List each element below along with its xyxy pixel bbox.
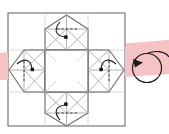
origami-diagram-figure [0,0,169,134]
top-flap-marker [64,35,67,38]
right-flap-marker [99,68,102,71]
bottom-flap-marker [64,102,67,105]
diagram-canvas [0,0,169,134]
pink-highlight-band-right [125,40,169,77]
left-flap-marker [31,68,34,71]
pink-highlight-band-left [0,53,8,81]
